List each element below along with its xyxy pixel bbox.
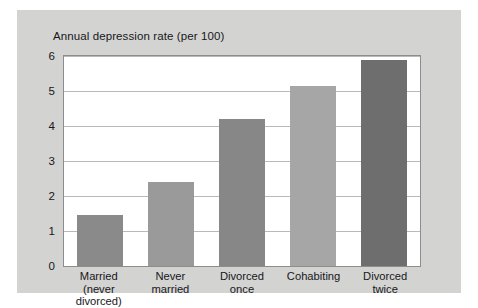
x-label-line2: twice — [349, 283, 421, 296]
bar-2 — [148, 182, 194, 266]
y-tick-label-1: 1 — [49, 225, 55, 237]
x-label-line2: (never divorced) — [63, 283, 135, 308]
x-label-2: Nevermarried — [135, 270, 207, 308]
y-tick-label-5: 5 — [49, 85, 55, 97]
y-tick-label-4: 4 — [49, 120, 55, 132]
bar-1 — [77, 215, 123, 266]
bar-4 — [290, 86, 336, 266]
bar-series — [64, 56, 420, 266]
chart-title: Annual depression rate (per 100) — [53, 30, 224, 42]
gridline-0 — [64, 266, 420, 267]
x-label-line2: married — [135, 283, 207, 296]
plot-area — [63, 55, 421, 267]
bar-5 — [361, 60, 407, 267]
x-label-line1: Divorced — [220, 270, 264, 282]
x-label-4: Cohabiting — [278, 270, 350, 308]
y-tick-label-6: 6 — [49, 50, 55, 62]
x-label-5: Divorcedtwice — [349, 270, 421, 308]
x-label-line1: Married — [80, 270, 118, 282]
y-tick-label-0: 0 — [49, 260, 55, 272]
x-axis-category-labels: Married(never divorced)NevermarriedDivor… — [63, 270, 421, 308]
chart-figure: Annual depression rate (per 100) 0123456… — [17, 10, 461, 293]
y-axis-tick-labels: 0123456 — [17, 55, 61, 267]
x-label-1: Married(never divorced) — [63, 270, 135, 308]
x-label-3: Divorcedonce — [206, 270, 278, 308]
x-label-line1: Never — [155, 270, 185, 282]
y-tick-label-3: 3 — [49, 155, 55, 167]
bar-3 — [219, 119, 265, 266]
x-label-line1: Divorced — [363, 270, 407, 282]
x-label-line2: once — [206, 283, 278, 296]
x-label-line1: Cohabiting — [287, 270, 341, 282]
y-tick-label-2: 2 — [49, 190, 55, 202]
